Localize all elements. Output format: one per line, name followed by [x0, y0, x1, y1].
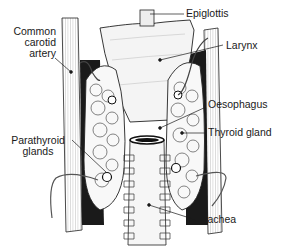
label-larynx: Larynx [226, 40, 258, 51]
label-oesophagus: Oesophagus [208, 99, 268, 110]
label-parathyroid-glands: Parathyroid glands [6, 135, 70, 157]
label-trachea: Trachea [198, 214, 236, 225]
trachea-shape [124, 136, 170, 245]
label-line: glands [6, 146, 70, 157]
label-line: artery [4, 48, 56, 59]
epiglottis-shape [140, 10, 154, 26]
label-epiglottis: Epiglottis [186, 8, 229, 19]
left-thyroid-lobe [84, 66, 125, 210]
label-common-carotid-artery: Common carotid artery [4, 26, 56, 59]
label-thyroid-gland: Thyroid gland [208, 127, 272, 138]
left-carotid-artery [62, 18, 82, 232]
